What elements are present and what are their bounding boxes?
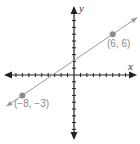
point-a-label: (−8, −3) [14,98,49,109]
coordinate-plane: y x (6, 6) (−8, −3) [0,0,140,144]
x-axis-arrow-left-icon [4,72,12,79]
plot-svg [0,0,140,144]
x-axis-arrow-right-icon [129,72,137,79]
y-axis-arrow-up-icon [71,6,78,14]
x-axis-label: x [128,60,133,72]
point-b-label: (6, 6) [107,38,130,49]
line-arrow-upper-icon [131,18,137,23]
line-arrow-lower-icon [6,101,12,106]
y-axis-arrow-down-icon [71,132,78,140]
point-b [110,31,116,37]
line-series [6,18,137,107]
y-axis-label: y [79,2,84,14]
